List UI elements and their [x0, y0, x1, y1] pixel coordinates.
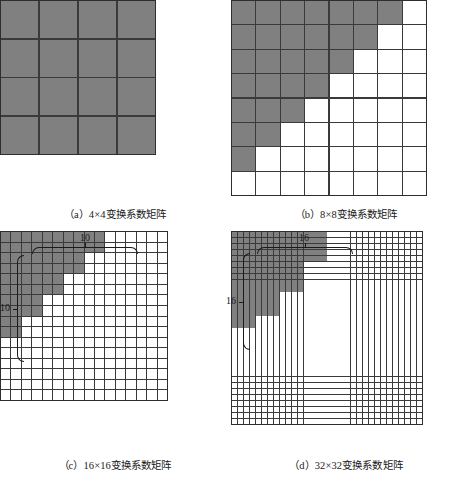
matrix-cell: [53, 264, 62, 274]
matrix-cell: [357, 419, 362, 424]
matrix-cell: [327, 358, 332, 363]
matrix-cell: [315, 274, 320, 279]
matrix-cell: [351, 346, 356, 351]
matrix-cell: [292, 298, 297, 303]
matrix-cell: [333, 370, 338, 375]
matrix-cell: [1, 1, 38, 38]
matrix-cell: [411, 238, 416, 243]
matrix-cell: [387, 310, 392, 315]
matrix-cell: [351, 340, 356, 345]
matrix-cell: [126, 338, 135, 348]
matrix-cell: [256, 364, 261, 369]
matrix-cell: [1, 338, 10, 348]
matrix-cell: [116, 306, 125, 316]
matrix-cell: [351, 262, 356, 267]
matrix-cell: [232, 407, 237, 412]
matrix-cell: [330, 123, 353, 146]
matrix-cell: [339, 322, 344, 327]
matrix-cell: [327, 364, 332, 369]
matrix-cell: [354, 99, 377, 122]
matrix-cell: [363, 358, 368, 363]
matrix-cell: [268, 340, 273, 345]
matrix-cell: [387, 383, 392, 388]
matrix-cell: [64, 338, 73, 348]
matrix-cell: [262, 256, 267, 261]
matrix-cell: [105, 338, 114, 348]
matrix-cell: [411, 328, 416, 333]
matrix-cell: [95, 380, 104, 390]
matrix-cell: [339, 298, 344, 303]
matrix-cell: [363, 364, 368, 369]
matrix-cell: [309, 340, 314, 345]
matrix-cell: [330, 1, 353, 24]
matrix-cell: [375, 274, 380, 279]
matrix-cell: [411, 304, 416, 309]
matrix-cell: [232, 377, 237, 382]
matrix-cell: [250, 304, 255, 309]
matrix-cell: [417, 328, 422, 333]
matrix-cell: [32, 348, 41, 358]
matrix-cell: [32, 285, 41, 295]
matrix-cell: [375, 413, 380, 418]
matrix-cell: [345, 286, 350, 291]
matrix-cell: [399, 238, 404, 243]
matrix-cell: [95, 232, 104, 242]
matrix-cell: [95, 295, 104, 305]
matrix-cell: [116, 390, 125, 400]
matrix-cell: [369, 370, 374, 375]
matrix-cell: [22, 232, 31, 242]
matrix-cell: [304, 377, 309, 382]
matrix-cell: [321, 377, 326, 382]
matrix-cell: [315, 292, 320, 297]
matrix-cell: [345, 419, 350, 424]
matrix-cell: [305, 99, 328, 122]
matrix-cell: [327, 419, 332, 424]
matrix-cell: [105, 380, 114, 390]
matrix-cell: [126, 232, 135, 242]
matrix-cell: [399, 401, 404, 406]
dim-label-top-d: 16: [299, 232, 309, 243]
matrix-cell: [339, 334, 344, 339]
matrix-cell: [268, 413, 273, 418]
matrix-cell: [393, 334, 398, 339]
matrix-cell: [405, 395, 410, 400]
matrix-cell: [147, 295, 156, 305]
matrix-cell: [369, 310, 374, 315]
matrix-cell: [363, 232, 368, 237]
matrix-cell: [256, 280, 261, 285]
matrix-cell: [74, 295, 83, 305]
matrix-cell: [256, 256, 261, 261]
matrix-cell: [53, 348, 62, 358]
matrix-cell: [375, 244, 380, 249]
matrix-cell: [393, 310, 398, 315]
matrix-cell: [105, 285, 114, 295]
matrix-cell: [411, 280, 416, 285]
matrix-cell: [286, 413, 291, 418]
matrix-cell: [345, 413, 350, 418]
matrix-cell: [238, 352, 243, 357]
matrix-cell: [345, 407, 350, 412]
matrix-cell: [304, 346, 309, 351]
matrix-cell: [64, 369, 73, 379]
matrix-cell: [256, 298, 261, 303]
matrix-cell: [105, 306, 114, 316]
matrix-cell: [286, 256, 291, 261]
matrix-cell: [363, 304, 368, 309]
matrix-cell: [286, 377, 291, 382]
matrix-cell: [417, 304, 422, 309]
matrix-cell: [256, 274, 261, 279]
matrix-cell: [399, 364, 404, 369]
matrix-cell: [147, 380, 156, 390]
matrix-cell: [43, 285, 52, 295]
matrix-cell: [381, 322, 386, 327]
matrix-cell: [105, 317, 114, 327]
matrix-cell: [393, 340, 398, 345]
matrix-cell: [292, 334, 297, 339]
matrix-cell: [411, 346, 416, 351]
caption-a: （a）4×4变换系数矩阵: [0, 206, 230, 221]
matrix-cell: [116, 285, 125, 295]
matrix-cell: [292, 256, 297, 261]
matrix-cell: [74, 285, 83, 295]
matrix-cell: [321, 364, 326, 369]
matrix-cell: [375, 250, 380, 255]
